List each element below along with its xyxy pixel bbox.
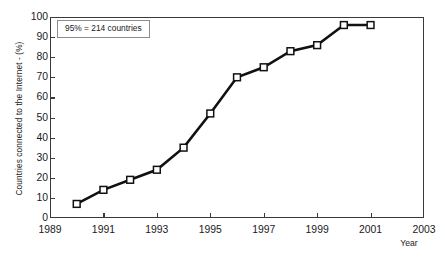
data-point-marker — [100, 186, 107, 193]
data-point-marker — [260, 64, 267, 71]
data-point-marker — [234, 74, 241, 81]
data-point-marker — [367, 22, 374, 29]
data-point-marker — [314, 42, 321, 49]
chart-figure: Countries connected to the Internet - (%… — [0, 0, 445, 263]
data-point-marker — [153, 166, 160, 173]
data-point-marker — [207, 110, 214, 117]
data-point-marker — [180, 144, 187, 151]
data-point-marker — [127, 176, 134, 183]
series-markers — [73, 22, 374, 208]
series-line — [77, 25, 371, 204]
data-series-layer — [0, 0, 445, 263]
data-point-marker — [340, 22, 347, 29]
data-point-marker — [287, 48, 294, 55]
data-point-marker — [73, 201, 80, 208]
